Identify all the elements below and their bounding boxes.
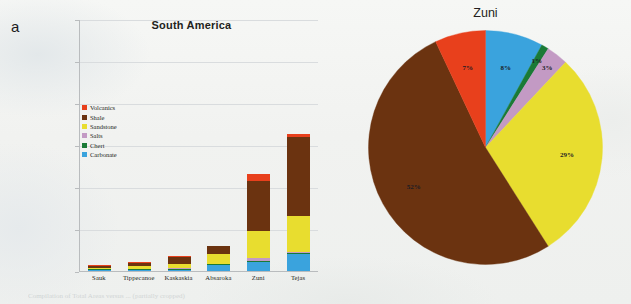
stacked-bar[interactable] (287, 134, 310, 271)
pie-chart-title: Zuni (340, 6, 631, 20)
pie-percent-label-salts: 3% (542, 64, 553, 72)
bar-segment-shale (247, 181, 270, 231)
y-axis-tick-mark (75, 146, 79, 147)
y-axis-tick-mark (75, 188, 79, 189)
x-axis-label: Sauk (79, 274, 119, 281)
bar-segment-carbonate (247, 262, 270, 271)
bar-slot (159, 20, 199, 271)
legend-swatch-icon (82, 115, 87, 120)
panel-a-letter: a (11, 18, 19, 35)
legend-item-sandstone[interactable]: Sandstone (82, 122, 117, 131)
bar-segment-sandstone (207, 254, 230, 263)
y-axis-tick-mark (75, 62, 79, 63)
bar-segment-carbonate (207, 265, 230, 271)
bar-segment-sandstone (247, 231, 270, 258)
bar-slot (199, 20, 239, 271)
legend-label: Sandstone (90, 123, 117, 130)
bar-slot (239, 20, 279, 271)
pie-percent-label-chert: 1% (531, 57, 542, 65)
legend-swatch-icon (82, 124, 87, 129)
x-axis-label: Tejas (278, 274, 318, 281)
legend-label: Chert (90, 142, 104, 149)
bar-segment-shale (287, 137, 310, 216)
y-axis-tick-mark (75, 104, 79, 105)
bar-segment-sandstone (287, 216, 310, 252)
pie-percent-label-sandstone: 29% (560, 151, 574, 159)
x-axis-label: Kaskaskia (159, 274, 199, 281)
pie-percent-label-volcanics: 7% (462, 64, 473, 72)
legend-swatch-icon (82, 143, 87, 148)
caption-text: Compilation of Total Areas versus ... (p… (28, 292, 185, 300)
bar-segment-carbonate (128, 270, 151, 271)
figure-caption: Compilation of Total Areas versus ... (p… (0, 290, 631, 304)
legend-label: Shale (90, 114, 104, 121)
legend-item-salts[interactable]: Salts (82, 131, 117, 140)
bar-segment-shale (207, 246, 230, 254)
bar-segment-carbonate (287, 254, 310, 271)
legend-item-carbonate[interactable]: Carbonate (82, 150, 117, 159)
bar-segment-carbonate (88, 270, 111, 271)
legend-item-chert[interactable]: Chert (82, 141, 117, 150)
stacked-bar[interactable] (207, 246, 230, 271)
legend-item-shale[interactable]: Shale (82, 112, 117, 121)
x-axis-label: Tippecanoe (119, 274, 159, 281)
pie-percent-label-shale: 52% (407, 183, 421, 191)
y-axis-tick-mark (75, 230, 79, 231)
figure: a South America 60,000,00050,000,00040,0… (0, 0, 631, 304)
x-axis-labels: SaukTippecanoeKaskaskiaAbsarokaZuniTejas (79, 274, 318, 281)
bar-segment-volcanics (247, 174, 270, 181)
stacked-bar[interactable] (88, 265, 111, 271)
legend-swatch-icon (82, 152, 87, 157)
legend-swatch-icon (82, 133, 87, 138)
panel-b-pie-chart: b Zuni 8%1%3%29%52%7% (340, 0, 631, 304)
y-axis-tick-mark (75, 20, 79, 21)
stacked-bar[interactable] (168, 256, 191, 271)
stacked-bar[interactable] (247, 174, 270, 271)
legend-swatch-icon (82, 105, 87, 110)
y-axis-tick-mark (75, 272, 79, 273)
legend-item-volcanics[interactable]: Volcanics (82, 103, 117, 112)
legend-label: Salts (90, 132, 103, 139)
pie-svg (368, 30, 603, 265)
x-axis-label: Zuni (238, 274, 278, 281)
pie-percent-label-carbonate: 8% (501, 64, 512, 72)
stacked-bar[interactable] (128, 262, 151, 271)
pie-chart-area: 8%1%3%29%52%7% (368, 30, 603, 265)
panel-a-bar-chart: a South America 60,000,00050,000,00040,0… (0, 0, 340, 304)
legend-label: Carbonate (90, 151, 117, 158)
bar-slot (120, 20, 160, 271)
x-axis-label: Absaroka (198, 274, 238, 281)
legend-label: Volcanics (90, 104, 115, 111)
bar-segment-carbonate (168, 270, 191, 271)
bar-slot (278, 20, 318, 271)
bar-chart-legend: VolcanicsShaleSandstoneSaltsChertCarbona… (82, 103, 117, 159)
